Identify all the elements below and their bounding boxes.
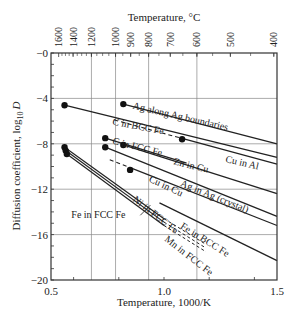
y-tick-label: −4 — [36, 92, 48, 104]
diffusion-chart: −0−4−8−12−16−200.51.01.51600140012001000… — [0, 0, 291, 322]
series-label: Zn in Cu — [173, 155, 210, 174]
top-tick-label: 1000 — [110, 27, 121, 47]
series-label: Ni in FCC Fe — [131, 193, 181, 235]
top-tick-label: 400 — [268, 32, 279, 47]
x-tick-label: 1.5 — [270, 285, 284, 297]
data-point — [179, 136, 185, 142]
y-tick-label: −0 — [36, 47, 48, 59]
data-point — [127, 167, 133, 173]
top-tick-label: 900 — [125, 32, 136, 47]
data-point — [61, 102, 67, 108]
y-axis-title-sub: 10 — [16, 111, 25, 119]
series-label: Ag in Ag (crystal) — [179, 177, 251, 215]
top-tick-label: 800 — [143, 32, 154, 47]
series-label: C in FCC Fe — [112, 135, 165, 158]
top-tick-label: 1200 — [86, 27, 97, 47]
y-tick-label: −16 — [31, 229, 49, 241]
data-point — [64, 151, 70, 157]
top-tick-label: 1600 — [53, 27, 64, 47]
series-label: Fe in FCC Fe — [71, 209, 126, 220]
data-point — [120, 101, 126, 107]
series-label: Cu in Al — [225, 153, 261, 171]
x-axis-title: Temperature, 1000/K — [117, 296, 211, 308]
y-axis-title: Diffusion coefficient, log10D — [10, 101, 25, 230]
y-axis-title-main: Diffusion coefficient, log — [10, 119, 22, 231]
top-tick-label: 600 — [191, 32, 202, 47]
top-tick-label: 1400 — [68, 27, 79, 47]
data-point — [102, 135, 108, 141]
series-label: C in BCC Fe — [112, 116, 166, 137]
series-line-extrapolated — [110, 160, 130, 168]
top-tick-label: 700 — [165, 32, 176, 47]
y-axis-title-var: D — [10, 101, 22, 110]
data-point — [102, 144, 108, 150]
top-axis-title: Temperature, °C — [128, 11, 201, 23]
x-tick-label: 0.5 — [44, 285, 58, 297]
y-tick-label: −12 — [31, 183, 48, 195]
y-tick-label: −8 — [36, 138, 48, 150]
top-tick-label: 500 — [225, 32, 236, 47]
